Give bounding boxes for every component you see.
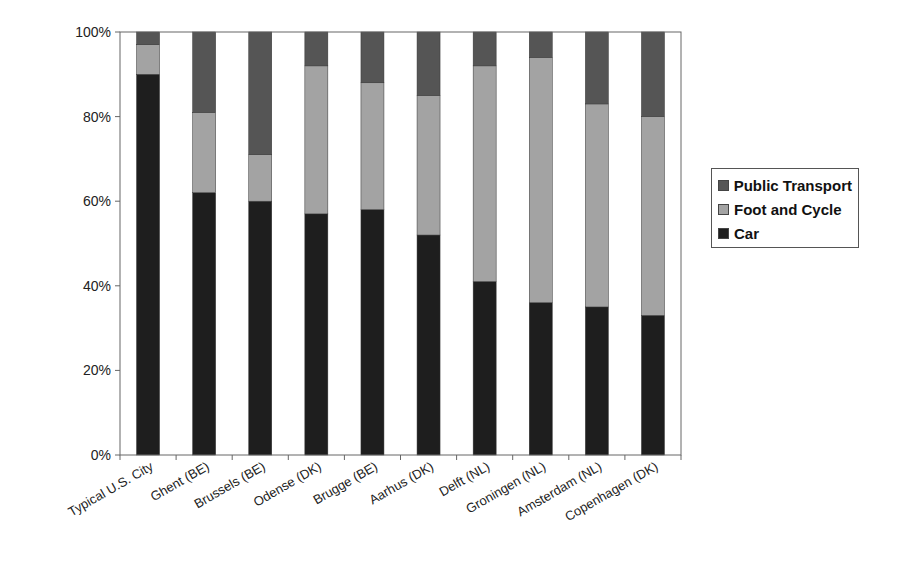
legend-item-public-transport: Public Transport bbox=[718, 173, 852, 197]
y-tick-label: 40% bbox=[83, 278, 111, 294]
y-tick-label: 60% bbox=[83, 193, 111, 209]
bar-segment-foot-and-cycle bbox=[473, 66, 496, 282]
legend-label: Public Transport bbox=[734, 177, 852, 194]
bar-segment-public-transport bbox=[585, 32, 608, 104]
bar-segment-car bbox=[417, 235, 440, 455]
bar-segment-public-transport bbox=[305, 32, 328, 66]
legend-label: Car bbox=[734, 225, 759, 242]
bar-segment-foot-and-cycle bbox=[585, 104, 608, 307]
bar-segment-foot-and-cycle bbox=[249, 155, 272, 202]
bar-segment-car bbox=[137, 74, 160, 455]
bar-segment-public-transport bbox=[361, 32, 384, 83]
x-tick-label: Copenhagen (DK) bbox=[562, 459, 660, 524]
bar-segment-car bbox=[529, 303, 552, 455]
bar-segment-foot-and-cycle bbox=[137, 45, 160, 75]
legend-label: Foot and Cycle bbox=[734, 201, 842, 218]
bar-segment-car bbox=[361, 210, 384, 455]
legend: Public Transport Foot and Cycle Car bbox=[711, 168, 859, 248]
bar-segment-foot-and-cycle bbox=[305, 66, 328, 214]
legend-item-car: Car bbox=[718, 221, 852, 245]
y-axis: 0%20%40%60%80%100% bbox=[75, 24, 120, 463]
y-tick-label: 20% bbox=[83, 362, 111, 378]
bar-segment-foot-and-cycle bbox=[361, 83, 384, 210]
y-tick-label: 0% bbox=[91, 447, 111, 463]
bar-segment-car bbox=[641, 315, 664, 455]
bar-segment-foot-and-cycle bbox=[641, 117, 664, 316]
x-tick-label: Aarhus (DK) bbox=[367, 459, 436, 508]
bar-segment-public-transport bbox=[249, 32, 272, 155]
bar-segment-public-transport bbox=[137, 32, 160, 45]
y-tick-label: 100% bbox=[75, 24, 111, 40]
legend-swatch-public-transport bbox=[718, 180, 729, 191]
bar-segment-car bbox=[193, 193, 216, 455]
bar-segment-car bbox=[473, 282, 496, 455]
bar-segment-foot-and-cycle bbox=[193, 112, 216, 192]
stacked-bar-chart: 0%20%40%60%80%100% Typical U.S. CityGhen… bbox=[0, 0, 903, 568]
bar-segment-car bbox=[585, 307, 608, 455]
bar-segment-car bbox=[305, 214, 328, 455]
bar-segment-foot-and-cycle bbox=[529, 57, 552, 302]
legend-swatch-car bbox=[718, 228, 729, 239]
x-axis: Typical U.S. CityGhent (BE)Brussels (BE)… bbox=[65, 455, 681, 524]
bar-segment-foot-and-cycle bbox=[417, 95, 440, 235]
y-tick-label: 80% bbox=[83, 109, 111, 125]
legend-item-foot-and-cycle: Foot and Cycle bbox=[718, 197, 852, 221]
bar-segment-public-transport bbox=[473, 32, 496, 66]
x-tick-label: Typical U.S. City bbox=[65, 458, 156, 519]
bar-segment-car bbox=[249, 201, 272, 455]
bar-segment-public-transport bbox=[193, 32, 216, 112]
bars bbox=[137, 32, 665, 455]
bar-segment-public-transport bbox=[529, 32, 552, 57]
bar-segment-public-transport bbox=[641, 32, 664, 117]
legend-swatch-foot-and-cycle bbox=[718, 204, 729, 215]
bar-segment-public-transport bbox=[417, 32, 440, 95]
